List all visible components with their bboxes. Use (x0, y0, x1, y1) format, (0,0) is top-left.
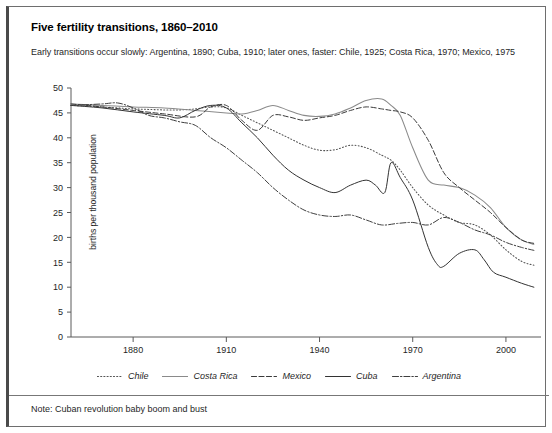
y-tick-label: 25 (53, 208, 63, 218)
series-line-cuba (71, 105, 534, 287)
y-tick-label: 50 (53, 83, 63, 93)
y-axis-label: births per thousand population (88, 102, 98, 282)
legend-swatch-dashdot (392, 372, 418, 381)
legend-label: Argentina (423, 371, 462, 381)
x-tick-label: 1970 (403, 345, 423, 355)
x-tick-label: 1910 (216, 345, 236, 355)
y-tick-label: 40 (53, 133, 63, 143)
y-tick-label: 15 (53, 258, 63, 268)
chart-title: Five fertility transitions, 1860–2010 (31, 21, 218, 33)
legend-item-chile[interactable]: Chile (97, 371, 149, 381)
chart-panel: Five fertility transitions, 1860–2010 Ea… (6, 6, 546, 427)
chart-legend: ChileCosta RicaMexicoCubaArgentina (9, 371, 549, 381)
legend-item-argentina[interactable]: Argentina (392, 371, 462, 381)
legend-item-costa-rica[interactable]: Costa Rica (162, 371, 237, 381)
series-line-argentina (71, 103, 534, 251)
x-tick-label: 2000 (496, 345, 516, 355)
chart-subtitle: Early transitions occur slowly: Argentin… (31, 47, 515, 57)
series-line-chile (71, 105, 534, 265)
y-tick-label: 35 (53, 158, 63, 168)
legend-item-cuba[interactable]: Cuba (325, 371, 378, 381)
x-tick-label: 1880 (123, 345, 143, 355)
legend-item-mexico[interactable]: Mexico (251, 371, 311, 381)
y-tick-label: 30 (53, 183, 63, 193)
y-tick-label: 5 (58, 307, 63, 317)
legend-swatch-dotted (97, 372, 123, 381)
legend-label: Costa Rica (193, 371, 237, 381)
plot-area: births per thousand population 051015202… (9, 69, 549, 364)
y-tick-label: 45 (53, 108, 63, 118)
note-divider (9, 395, 549, 396)
legend-label: Chile (128, 371, 149, 381)
x-tick-label: 1940 (310, 345, 330, 355)
legend-swatch-solid-light (162, 372, 188, 381)
legend-swatch-solid-dark (325, 372, 351, 381)
y-tick-label: 20 (53, 233, 63, 243)
y-tick-label: 0 (58, 332, 63, 342)
legend-swatch-dashed (251, 372, 277, 381)
chart-note: Note: Cuban revolution baby boom and bus… (31, 404, 207, 414)
legend-label: Cuba (356, 371, 378, 381)
legend-label: Mexico (282, 371, 311, 381)
series-line-mexico (71, 104, 534, 243)
y-tick-label: 10 (53, 282, 63, 292)
